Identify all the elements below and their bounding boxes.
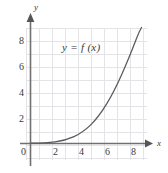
x-tick-label-8: 8	[131, 147, 136, 157]
x-tick-label-4: 4	[79, 147, 84, 157]
y-axis-label: y	[34, 3, 38, 12]
x-tick-label-6: 6	[105, 147, 110, 157]
curve-annotation-label: y = f (x)	[62, 42, 101, 53]
x-axis-label: x	[157, 139, 161, 148]
y-tick-label-4: 4	[19, 88, 24, 98]
y-tick-label-6: 6	[19, 62, 24, 72]
y-tick-label-8: 8	[19, 36, 24, 46]
x-tick-label-0: 0	[21, 147, 26, 157]
y-tick-label-2: 2	[19, 114, 24, 124]
graph-figure: 8 6 4 2 0 2 4 6 8 y x y = f (x)	[0, 0, 168, 173]
x-tick-label-2: 2	[53, 147, 58, 157]
